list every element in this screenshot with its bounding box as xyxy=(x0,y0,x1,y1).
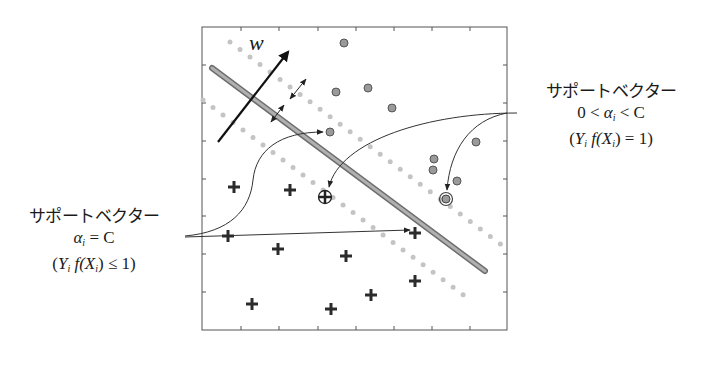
plus-point xyxy=(325,303,337,315)
circle-point xyxy=(453,177,461,185)
plus-point xyxy=(409,227,421,239)
plot-frame xyxy=(202,27,507,330)
circle-point xyxy=(429,166,437,174)
weight-vector-label: w xyxy=(249,30,264,56)
circle-point xyxy=(472,138,480,146)
label-title: サポートベクター xyxy=(4,205,184,227)
label-title: サポートベクター xyxy=(520,80,702,102)
circle-point xyxy=(388,104,396,112)
plus-point xyxy=(222,230,234,242)
plus-point xyxy=(246,298,258,310)
circle-point xyxy=(364,84,372,92)
plus-point xyxy=(409,275,421,287)
margin-line-lower xyxy=(203,100,470,300)
plus-point xyxy=(340,250,352,262)
circle-point xyxy=(332,88,340,96)
svm-diagram: w サポートベクター 0 < αi < C (Yi f(Xi) = 1) サポー… xyxy=(0,0,705,367)
circle-point xyxy=(340,39,348,47)
support-vector-plus-circled xyxy=(319,191,332,204)
support-vector-label-right: サポートベクター 0 < αi < C (Yi f(Xi) = 1) xyxy=(520,80,702,154)
positive-class-points xyxy=(326,39,480,185)
alpha-condition: 0 < αi < C xyxy=(520,102,702,128)
plus-point xyxy=(284,184,296,196)
plus-point xyxy=(228,181,240,193)
alpha-condition: αi = C xyxy=(4,227,184,253)
circle-point xyxy=(430,155,438,163)
weight-vector-arrow xyxy=(218,52,288,142)
plus-point xyxy=(365,289,377,301)
plot-canvas xyxy=(0,0,705,367)
plus-point xyxy=(272,243,284,255)
support-vector-label-left: サポートベクター αi = C (Yi f(Xi) ≤ 1) xyxy=(4,205,184,279)
margin-equation: (Yi f(Xi) ≤ 1) xyxy=(4,253,184,279)
circle-point xyxy=(326,128,334,136)
margin-equation: (Yi f(Xi) = 1) xyxy=(520,128,702,154)
